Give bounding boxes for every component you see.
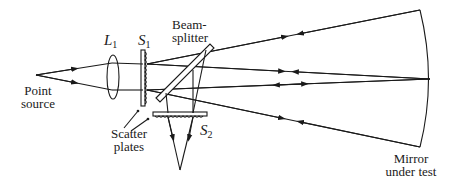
beamsplitter-label: Beam- splitter: [172, 18, 206, 44]
mirror-label: Mirror under test: [381, 152, 441, 178]
point-source-label: Point source: [20, 84, 56, 110]
interferometer-diagram: L1 S1 S2 Beam- splitter Point source Sca…: [0, 0, 451, 185]
scatter-plates-label: Scatter plates: [108, 127, 150, 153]
scatter-plate-S2: [153, 112, 207, 117]
s2-label: S2: [200, 124, 213, 138]
lens-label: L1: [104, 34, 117, 48]
s1-label: S1: [138, 34, 151, 48]
lens-L1: [107, 55, 119, 99]
scatter-plate-S1: [141, 50, 146, 106]
